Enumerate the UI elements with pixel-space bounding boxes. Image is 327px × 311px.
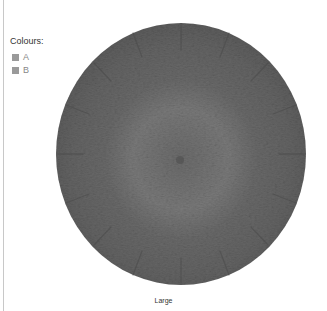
size-caption: Large — [0, 297, 327, 304]
colour-option-b[interactable]: B — [10, 64, 44, 76]
colour-swatch-b — [12, 67, 19, 74]
colour-label-a: A — [23, 52, 29, 63]
beret-product-image — [55, 22, 307, 287]
legend-title: Colours: — [10, 36, 44, 47]
colour-legend: Colours: A B — [10, 36, 44, 77]
colour-swatch-a — [12, 54, 19, 61]
colour-label-b: B — [23, 65, 29, 76]
colour-option-a[interactable]: A — [10, 51, 44, 63]
left-divider — [3, 0, 4, 311]
